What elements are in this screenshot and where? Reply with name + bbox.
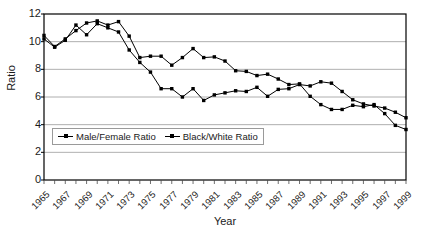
legend-item-black-white: Black/White Ratio — [165, 132, 258, 142]
legend-marker-icon — [165, 133, 180, 141]
legend-item-label: Black/White Ratio — [183, 132, 258, 142]
x-axis-title: Year — [44, 215, 406, 227]
chart-container: Ratio 024681012 196519671969197119731975… — [0, 0, 421, 235]
plot-area — [0, 0, 421, 235]
legend-item-label: Male/Female Ratio — [76, 132, 156, 142]
legend-item-male-female: Male/Female Ratio — [58, 132, 156, 142]
chart-legend: Male/Female Ratio Black/White Ratio — [52, 128, 264, 145]
legend-marker-icon — [58, 133, 73, 141]
